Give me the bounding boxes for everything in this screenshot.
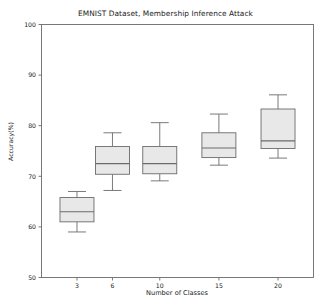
box-iqr bbox=[143, 146, 177, 173]
box-series bbox=[60, 95, 295, 232]
x-tick-label: 20 bbox=[274, 282, 282, 289]
x-axis-ticks: 36101520 bbox=[75, 278, 282, 290]
x-tick-label: 6 bbox=[110, 282, 114, 289]
y-tick-label: 50 bbox=[28, 274, 36, 281]
y-axis-ticks: 5060708090100 bbox=[24, 21, 41, 281]
y-tick-label: 80 bbox=[28, 122, 36, 129]
boxplot-figure: EMNIST Dataset, Membership Inference Att… bbox=[0, 0, 331, 305]
box-iqr bbox=[95, 146, 129, 174]
x-tick-label: 10 bbox=[156, 282, 164, 289]
plot-area: 5060708090100 36101520 bbox=[0, 0, 331, 305]
axes-frame bbox=[42, 25, 314, 278]
box-iqr bbox=[60, 198, 94, 222]
y-tick-label: 60 bbox=[28, 223, 36, 230]
box-iqr bbox=[261, 109, 295, 148]
box-plot-item-6 bbox=[95, 133, 129, 191]
box-plot-item-3 bbox=[60, 191, 94, 231]
box-plot-item-20 bbox=[261, 95, 295, 158]
y-tick-label: 70 bbox=[28, 173, 36, 180]
box-plot-item-10 bbox=[143, 123, 177, 181]
y-tick-label: 100 bbox=[24, 21, 36, 28]
x-tick-label: 15 bbox=[215, 282, 223, 289]
box-plot-item-15 bbox=[202, 114, 236, 165]
y-tick-label: 90 bbox=[28, 71, 36, 78]
box-iqr bbox=[202, 133, 236, 158]
x-tick-label: 3 bbox=[75, 282, 79, 289]
